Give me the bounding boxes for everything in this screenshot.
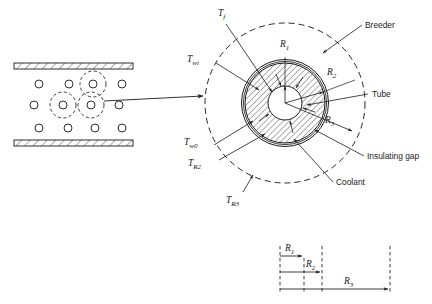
unit-cell-outlines	[50, 71, 106, 118]
duct-wall-top	[14, 63, 133, 69]
inset-label-r2: R2	[305, 259, 316, 272]
magnification-arrow	[104, 96, 203, 101]
label-tube: Tube	[372, 89, 391, 99]
leader-breeder	[323, 25, 362, 53]
leader-coolant	[294, 139, 333, 182]
label-r1: R1	[279, 39, 289, 52]
inset-label-r3: R3	[343, 276, 354, 289]
label-breeder: Breeder	[365, 20, 395, 30]
leader-tr3	[243, 175, 253, 192]
label-tw0: Tw0	[184, 137, 198, 150]
leader-tw0	[214, 121, 253, 145]
label-tf: Tf	[218, 8, 226, 21]
label-twi: Twi	[187, 54, 199, 67]
label-insulating-gap: Insulating gap	[367, 151, 419, 161]
duct-array-view	[14, 63, 133, 146]
label-r2: R2	[326, 67, 337, 80]
label-r3: R3	[324, 115, 335, 128]
duct-wall-bottom	[14, 140, 133, 146]
label-coolant: Coolant	[336, 177, 366, 187]
radial-dimension-scale: R1 R2 R3	[280, 243, 390, 292]
leader-insulating-gap	[315, 130, 364, 156]
inset-label-r1: R1	[284, 243, 294, 256]
technical-diagram: Tf Twi Tw0 TR2 TR3 R1 R2 R3 Breeder Tube…	[0, 0, 432, 304]
label-tr2: TR2	[188, 158, 202, 171]
label-tr3: TR3	[226, 195, 240, 208]
